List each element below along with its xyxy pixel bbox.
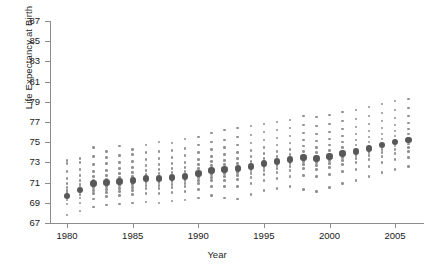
- scatter-point: [236, 136, 239, 139]
- scatter-point: [171, 171, 174, 174]
- scatter-point: [341, 170, 344, 173]
- scatter-point: [250, 182, 253, 185]
- scatter-point: [394, 100, 397, 103]
- scatter-point: [407, 146, 410, 149]
- scatter-point: [394, 109, 397, 112]
- scatter-point: [66, 159, 69, 162]
- mean-point: [169, 174, 175, 180]
- scatter-point: [341, 135, 344, 138]
- scatter-point: [145, 158, 148, 161]
- scatter-point: [263, 139, 266, 142]
- scatter-point: [368, 165, 371, 168]
- scatter-point: [197, 151, 200, 154]
- scatter-point: [158, 168, 161, 171]
- scatter-point: [184, 190, 187, 193]
- mean-point: [64, 193, 70, 199]
- scatter-point: [407, 150, 410, 153]
- mean-point: [103, 179, 109, 185]
- scatter-point: [118, 203, 121, 206]
- scatter-point: [131, 189, 134, 192]
- life-expectancy-scatter-chart: Life Expectancy at Birth Year 6769717375…: [0, 0, 434, 270]
- scatter-point: [118, 167, 121, 170]
- scatter-point: [79, 210, 82, 213]
- scatter-point: [250, 142, 253, 145]
- scatter-point: [118, 145, 121, 148]
- scatter-point: [92, 175, 95, 178]
- scatter-point: [407, 156, 410, 159]
- scatter-point: [197, 136, 200, 139]
- mean-point: [235, 165, 241, 171]
- scatter-point: [236, 198, 239, 201]
- scatter-point: [302, 188, 305, 191]
- scatter-point: [263, 179, 266, 182]
- scatter-point: [92, 189, 95, 192]
- scatter-point: [171, 200, 174, 203]
- scatter-point: [197, 182, 200, 185]
- scatter-point: [355, 118, 358, 121]
- scatter-point: [250, 134, 253, 137]
- scatter-point: [223, 129, 226, 132]
- scatter-point: [381, 112, 384, 115]
- scatter-point: [341, 141, 344, 144]
- scatter-point: [236, 151, 239, 154]
- scatter-point: [381, 127, 384, 130]
- scatter-point: [66, 182, 69, 185]
- scatter-point: [368, 136, 371, 139]
- scatter-point: [302, 124, 305, 127]
- scatter-point: [407, 107, 410, 110]
- scatter-point: [355, 139, 358, 142]
- scatter-point: [341, 146, 344, 149]
- scatter-point: [223, 185, 226, 188]
- scatter-point: [250, 125, 253, 128]
- scatter-point: [184, 147, 187, 150]
- scatter-point: [263, 152, 266, 155]
- scatter-point: [368, 115, 371, 118]
- scatter-point: [210, 160, 213, 163]
- mean-point: [130, 177, 136, 183]
- scatter-point: [92, 146, 95, 149]
- scatter-point: [381, 155, 384, 158]
- scatter-point: [302, 145, 305, 148]
- scatter-point: [184, 166, 187, 169]
- scatter-point: [171, 142, 174, 145]
- scatter-point: [171, 191, 174, 194]
- scatter-point: [315, 151, 318, 154]
- scatter-point: [315, 125, 318, 128]
- scatter-point: [210, 164, 213, 167]
- scatter-point: [341, 120, 344, 123]
- scatter-point: [407, 98, 410, 101]
- scatter-point: [328, 131, 331, 134]
- scatter-point: [105, 156, 108, 159]
- scatter-point: [118, 161, 121, 164]
- scatter-point: [407, 122, 410, 125]
- scatter-point: [131, 148, 134, 151]
- scatter-point: [145, 144, 148, 147]
- mean-point: [287, 156, 293, 162]
- scatter-point: [263, 146, 266, 149]
- scatter-point: [79, 161, 82, 164]
- scatter-point: [355, 179, 358, 182]
- scatter-point: [158, 192, 161, 195]
- mean-point: [274, 158, 280, 164]
- mean-point: [300, 154, 306, 160]
- scatter-point: [368, 141, 371, 144]
- scatter-point: [145, 192, 148, 195]
- scatter-point: [276, 121, 279, 124]
- scatter-point: [79, 157, 82, 160]
- scatter-point: [289, 165, 292, 168]
- scatter-point: [302, 174, 305, 177]
- scatter-point: [105, 174, 108, 177]
- scatter-point: [289, 127, 292, 130]
- scatter-point: [355, 109, 358, 112]
- scatter-point: [407, 133, 410, 136]
- scatter-point: [328, 166, 331, 169]
- scatter-point: [145, 169, 148, 172]
- scatter-point: [328, 123, 331, 126]
- scatter-point: [79, 193, 82, 196]
- scatter-point: [381, 103, 384, 106]
- scatter-point: [105, 191, 108, 194]
- mean-point: [339, 150, 345, 156]
- scatter-point: [394, 117, 397, 120]
- scatter-point: [355, 133, 358, 136]
- scatter-point: [368, 130, 371, 133]
